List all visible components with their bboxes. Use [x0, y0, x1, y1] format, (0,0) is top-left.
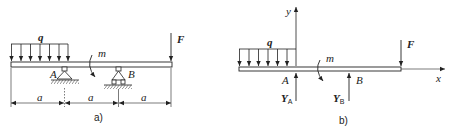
- label-YB: YB: [333, 92, 345, 105]
- label-y-axis: y: [285, 5, 291, 17]
- label-m: m: [326, 52, 334, 64]
- figure-b: x y q m F A YA B Y: [239, 5, 445, 126]
- distributed-load-q: [11, 44, 68, 61]
- label-F: F: [176, 33, 185, 45]
- caption-a: a): [94, 112, 103, 123]
- label-x-axis: x: [435, 72, 441, 84]
- YA-subscript: A: [288, 98, 293, 105]
- label-B: B: [128, 68, 135, 80]
- label-q: q: [38, 31, 44, 43]
- figure-a: q m F A B: [11, 31, 185, 123]
- dimension-a-3: a: [141, 91, 147, 103]
- beam: [239, 67, 401, 71]
- label-A: A: [281, 74, 289, 86]
- dimension-a-2: a: [88, 91, 94, 103]
- caption-b: b): [339, 115, 348, 126]
- distributed-load-q: [239, 49, 296, 66]
- beam-diagrams: q m F A B: [0, 0, 453, 135]
- YB-subscript: B: [340, 98, 345, 105]
- label-A: A: [49, 68, 57, 80]
- label-YA: YA: [281, 92, 293, 105]
- dimension-a-1: a: [37, 91, 43, 103]
- label-m: m: [98, 47, 106, 59]
- beam: [11, 62, 172, 67]
- label-q: q: [267, 36, 273, 48]
- label-F: F: [406, 38, 415, 50]
- label-B: B: [356, 74, 363, 86]
